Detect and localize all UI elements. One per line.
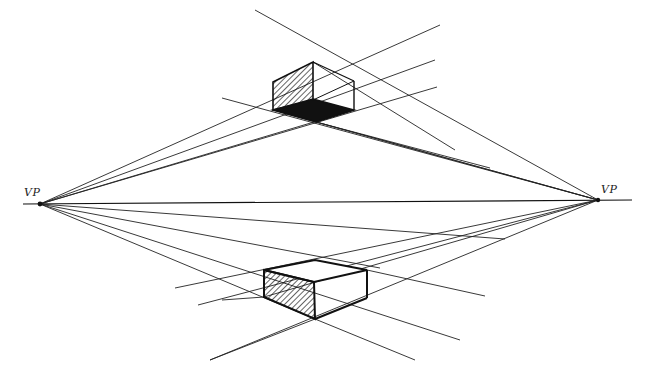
- right-vp-label: VP: [601, 183, 617, 196]
- right-vp-construction-lines: [175, 10, 598, 360]
- right-vp-dot: [596, 198, 600, 202]
- extension-lines: [210, 62, 490, 360]
- left-vp-label: VP: [24, 186, 40, 199]
- bottom-box: [264, 260, 367, 319]
- horizon-line: [23, 200, 632, 204]
- left-vp-dot: [38, 202, 43, 207]
- perspective-drawing: [0, 0, 655, 392]
- top-box: [273, 62, 354, 122]
